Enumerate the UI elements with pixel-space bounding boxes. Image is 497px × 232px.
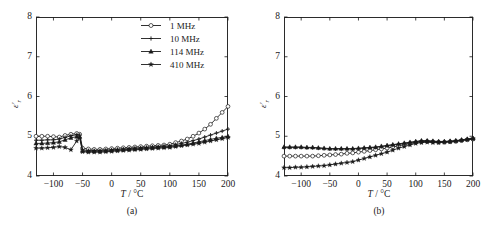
panel-label-a: (a): [102, 206, 162, 216]
figure-two-panel-permittivity: ε′r 45678 −100−50050100150200 T / °C (a)…: [0, 0, 497, 232]
y-tick-label: 7: [264, 51, 280, 61]
legend-marker-star-icon: [140, 59, 162, 70]
y-tick-label: 8: [264, 11, 280, 21]
x-tick-label: 200: [456, 179, 490, 189]
legend-label: 114 MHz: [162, 47, 204, 57]
y-tick-label: 4: [16, 170, 32, 180]
x-tick-label: 200: [211, 179, 245, 189]
y-axis-label-b: ε′r: [258, 100, 270, 108]
y-tick-label: 6: [16, 91, 32, 101]
y-tick-label: 4: [264, 170, 280, 180]
y-axis-label-a: ε′r: [10, 100, 22, 108]
y-tick-label: 8: [16, 11, 32, 21]
panel-b: ε′r 45678 −100−50050100150200 T / °C (b)…: [249, 0, 497, 232]
y-tick-label: 5: [16, 130, 32, 140]
y-tick-label: 7: [16, 51, 32, 61]
panel-label-b: (b): [349, 206, 409, 216]
legend-item: 410 MHz: [140, 58, 204, 71]
legend-label: 1 MHz: [162, 21, 195, 31]
y-tick-label: 6: [264, 91, 280, 101]
panel-a: ε′r 45678 −100−50050100150200 T / °C (a)…: [0, 0, 248, 232]
legend-marker-triangle-icon: [140, 46, 162, 57]
legend-label: 410 MHz: [162, 60, 204, 70]
legend-a: 1 MHz10 MHz114 MHz410 MHz: [140, 19, 204, 71]
legend-marker-plus-icon: [140, 33, 162, 44]
y-tick-label: 5: [264, 130, 280, 140]
x-axis-label-b: T / °C: [329, 189, 429, 199]
legend-marker-circle-open-icon: [140, 20, 162, 31]
x-axis-label-a: T / °C: [82, 189, 182, 199]
legend-label: 10 MHz: [162, 34, 200, 44]
legend-item: 1 MHz: [140, 19, 204, 32]
legend-item: 114 MHz: [140, 45, 204, 58]
legend-item: 10 MHz: [140, 32, 204, 45]
